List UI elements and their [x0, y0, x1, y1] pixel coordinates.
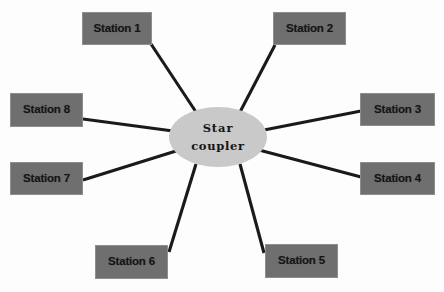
station-node-7-label: Station 7: [23, 173, 70, 185]
station-node-5[interactable]: Station 5: [265, 244, 338, 278]
link-station-7: [83, 151, 176, 180]
link-station-6: [169, 164, 196, 252]
station-node-4[interactable]: Station 4: [360, 162, 435, 195]
station-node-7[interactable]: Station 7: [10, 162, 83, 195]
station-node-1[interactable]: Station 1: [82, 12, 152, 45]
link-station-2: [240, 45, 275, 112]
station-node-4-label: Station 4: [374, 173, 421, 185]
station-node-2-label: Station 2: [286, 23, 333, 35]
link-station-1: [151, 44, 196, 112]
link-station-5: [240, 164, 264, 253]
star-coupler-label-line1: Star: [203, 122, 234, 134]
star-coupler-label-line2: coupler: [191, 140, 245, 152]
station-node-2[interactable]: Station 2: [273, 12, 346, 45]
station-node-3[interactable]: Station 3: [360, 93, 435, 126]
link-station-3: [264, 111, 361, 130]
station-node-8[interactable]: Station 8: [10, 93, 83, 127]
link-station-8: [83, 119, 173, 131]
star-coupler-node[interactable]: Star coupler: [169, 107, 267, 167]
station-node-1-label: Station 1: [94, 23, 141, 35]
station-node-8-label: Station 8: [23, 104, 70, 116]
star-topology-diagram: Star coupler Station 1 Station 2 Station…: [0, 0, 444, 292]
station-node-3-label: Station 3: [374, 104, 421, 116]
station-node-6[interactable]: Station 6: [95, 245, 168, 279]
station-node-6-label: Station 6: [108, 256, 155, 268]
link-station-4: [259, 150, 361, 177]
station-node-5-label: Station 5: [278, 255, 325, 267]
